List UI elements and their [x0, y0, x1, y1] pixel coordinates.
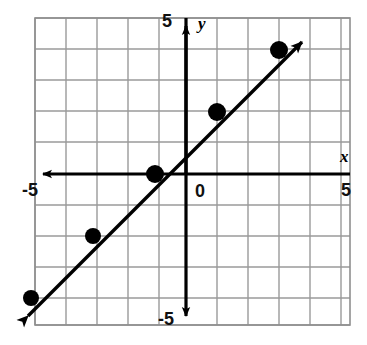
data-point — [270, 41, 288, 59]
graph-screenshot: 5 y -5 -5 5 x 0 — [0, 0, 367, 345]
y-axis-label: y — [196, 14, 206, 33]
data-point — [208, 103, 226, 121]
x-axis-label: x — [339, 147, 349, 166]
data-point — [85, 228, 101, 244]
data-point — [23, 290, 39, 306]
coordinate-plane-figure: 5 y -5 -5 5 x 0 — [0, 0, 367, 345]
x-min-label: -5 — [22, 180, 38, 200]
y-max-label: 5 — [162, 11, 172, 31]
y-min-label: -5 — [158, 309, 174, 329]
x-max-label: 5 — [341, 180, 351, 200]
origin-label: 0 — [195, 181, 205, 201]
data-point — [146, 165, 164, 183]
